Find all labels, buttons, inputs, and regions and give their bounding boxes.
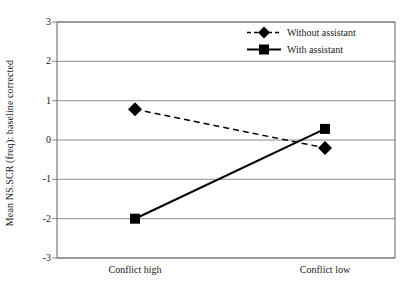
y-axis-title: Mean NS.SCR (freq): baseline corrected <box>0 0 18 286</box>
x-tick-label-conflict-high: Conflict high <box>108 264 161 275</box>
y-tick-label-0: 0 <box>22 135 51 145</box>
y-tick-label-neg2: -2 <box>22 214 51 224</box>
y-axis-ticks <box>52 22 57 258</box>
chart-canvas <box>0 0 413 286</box>
legend-label-without-assistant: Without assistant <box>287 27 356 38</box>
y-tick-label-neg3: -3 <box>22 253 51 263</box>
y-tick-label-3: 3 <box>22 17 51 27</box>
data-point-with-assistant-conflict-high <box>130 214 140 224</box>
y-tick-label-2: 2 <box>22 56 51 66</box>
y-tick-label-neg1: -1 <box>22 174 51 184</box>
data-point-with-assistant-conflict-low <box>320 124 330 134</box>
y-tick-label-1: 1 <box>22 96 51 106</box>
legend-label-with-assistant: With assistant <box>287 44 343 55</box>
x-tick-label-conflict-low: Conflict low <box>300 264 350 275</box>
legend-square-icon <box>259 45 269 55</box>
